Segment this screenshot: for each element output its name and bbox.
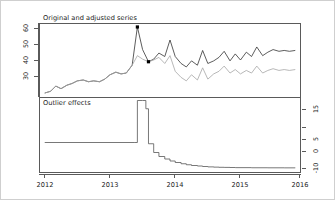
x-axis-label-2013: 2013 [92, 181, 128, 189]
x-tick-2013 [109, 174, 110, 178]
x-axis-label-2014: 2014 [157, 181, 193, 189]
x-axis-line [39, 174, 301, 175]
x-axis-label-2012: 2012 [27, 181, 63, 189]
x-tick-2016 [299, 174, 300, 178]
series-plot-bottom [1, 1, 335, 200]
x-axis-label-2015: 2015 [222, 181, 258, 189]
x-tick-2012 [44, 174, 45, 178]
x-tick-2015 [239, 174, 240, 178]
series-line-outlier-effect [45, 101, 296, 168]
r-plot-figure: Original and adjusted series 60 50 40 30… [0, 0, 335, 200]
x-tick-2014 [174, 174, 175, 178]
x-axis-label-2016: 2016 [282, 181, 318, 189]
